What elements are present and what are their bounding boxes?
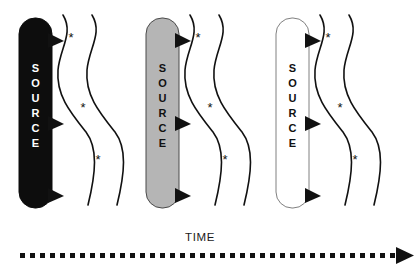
asterisk-marker: * (95, 152, 100, 167)
source-letter: R (32, 107, 40, 119)
source-letter: R (159, 107, 167, 119)
time-axis-arrow-icon (396, 247, 414, 264)
wavefront-curve (87, 15, 124, 205)
emission-arrow-icon (175, 188, 191, 203)
time-axis-label: TIME (185, 231, 215, 243)
source-letter: C (289, 122, 297, 134)
wavefront-curve (214, 15, 251, 205)
source-group-3: S O U R C E * * * (276, 15, 381, 208)
source-letter: E (32, 137, 39, 149)
source-group-1: S O U R C E * * * (19, 15, 124, 208)
source-letter: S (159, 62, 166, 74)
asterisk-marker: * (325, 30, 330, 45)
source-letter: E (289, 137, 296, 149)
emission-arrow-icon (305, 188, 321, 203)
source-letter: U (32, 92, 40, 104)
source-letter: C (159, 122, 167, 134)
asterisk-marker: * (80, 100, 85, 115)
asterisk-marker: * (195, 30, 200, 45)
wavefront-curve (344, 15, 381, 205)
source-letter: E (159, 137, 166, 149)
time-axis: TIME (20, 231, 414, 264)
time-axis-dashed-line (20, 253, 395, 258)
asterisk-marker: * (207, 100, 212, 115)
emission-arrow-icon (175, 33, 191, 48)
asterisk-marker: * (222, 152, 227, 167)
wavefront-curve (315, 15, 352, 205)
source-letter: O (158, 77, 167, 89)
wavefront-curve (185, 15, 222, 205)
diagram-canvas: S O U R C E * * * S O U R (0, 0, 416, 266)
emission-arrow-icon (175, 116, 191, 131)
emission-arrow-icon (305, 116, 321, 131)
source-letter: R (289, 107, 297, 119)
source-letter: U (159, 92, 167, 104)
source-letter: C (32, 122, 40, 134)
source-letter: S (32, 62, 39, 74)
wavefront-curve (58, 15, 95, 205)
source-letter: S (289, 62, 296, 74)
diagram-svg: S O U R C E * * * S O U R (0, 0, 416, 266)
emission-arrow-icon (48, 188, 64, 203)
emission-arrow-icon (305, 33, 321, 48)
asterisk-marker: * (337, 100, 342, 115)
source-group-2: S O U R C E * * * (146, 15, 251, 208)
asterisk-marker: * (68, 30, 73, 45)
emission-arrow-icon (48, 116, 64, 131)
asterisk-marker: * (352, 152, 357, 167)
source-letter: O (31, 77, 40, 89)
emission-arrow-icon (48, 33, 64, 48)
source-letter: O (288, 77, 297, 89)
source-letter: U (289, 92, 297, 104)
